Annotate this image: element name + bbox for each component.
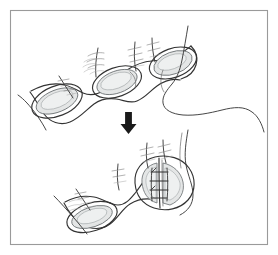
- lower-hatch-group-2: [112, 164, 126, 190]
- outer-frame: [11, 11, 268, 245]
- lower-joined-seam: [159, 158, 160, 208]
- lower-hatch-mark-l1a: [75, 192, 86, 194]
- upper-hatch-mark-2a: [88, 53, 104, 56]
- upper-hatch-stem-2: [96, 48, 98, 77]
- lower-hatch-mark-l3b: [141, 153, 154, 156]
- upper-hatch-mark-1a: [58, 79, 69, 81]
- lower-hatch-mark-l4b: [159, 150, 171, 153]
- lower-hatch-mark-l2b: [113, 175, 125, 177]
- upper-hatch-group-2: [87, 48, 104, 77]
- arrow-glyph: [121, 112, 137, 134]
- lower-panel: [54, 130, 194, 238]
- lower-hatch-stem-l2: [117, 164, 119, 190]
- lower-hatch-mark-l4a: [158, 144, 170, 147]
- upper-hatch-mark-4b: [148, 48, 160, 51]
- lower-lobe-joined: [135, 156, 194, 210]
- upper-thread-right-long: [163, 26, 264, 132]
- lower-hatch-stem-l3: [146, 143, 148, 168]
- lower-hatch-mark-l2c: [114, 181, 126, 183]
- lower-hatch-mark-l5b: [68, 205, 81, 207]
- lower-hatch-group-4: [158, 140, 172, 163]
- upper-panel: [18, 26, 264, 132]
- figure-root: Surgical repair line drawing Two-stage m…: [0, 0, 278, 255]
- lower-hatch-group-5: [68, 200, 82, 211]
- upper-hatch-mark-3c: [130, 59, 143, 62]
- downward-transition-arrow: [121, 112, 137, 134]
- upper-hatch-mark-4a: [147, 42, 159, 45]
- lower-hatch-mark-l5a: [69, 200, 82, 202]
- upper-hatch-mark-3b: [129, 53, 142, 56]
- lower-thread-right-inner: [180, 133, 182, 168]
- surgical-illustration-svg: [0, 0, 278, 255]
